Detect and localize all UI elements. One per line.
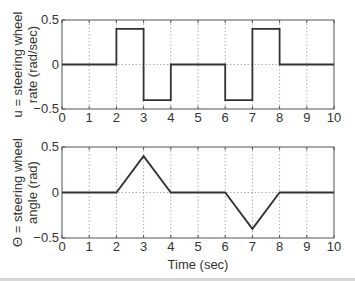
- x-tick-label: 8: [276, 239, 283, 254]
- x-tick-label: 0: [58, 239, 65, 254]
- x-tick-label: 0: [58, 110, 65, 125]
- x-tick-label: 10: [327, 239, 341, 254]
- x-tick-label: 9: [303, 239, 310, 254]
- x-tick-label: 4: [167, 110, 174, 125]
- y-tick-label: 0: [52, 57, 59, 72]
- svg-text:angle (rad): angle (rad): [25, 161, 40, 224]
- y-tick-label: 0.5: [41, 139, 59, 154]
- svg-text:rate (rad/sec): rate (rad/sec): [25, 26, 40, 103]
- x-tick-label: 1: [86, 239, 93, 254]
- x-tick-label: 7: [249, 239, 256, 254]
- y-tick-label: 0.5: [41, 12, 59, 27]
- svg-text:Θ = steering wheel: Θ = steering wheel: [10, 138, 25, 247]
- x-tick-label: 10: [327, 110, 341, 125]
- x-tick-label: 6: [222, 110, 229, 125]
- x-tick-label: 3: [140, 239, 147, 254]
- x-axis-label: Time (sec): [168, 257, 229, 272]
- x-tick-label: 2: [113, 110, 120, 125]
- top-y-axis-label: u = steering wheelrate (rad/sec): [10, 11, 40, 117]
- x-tick-label: 6: [222, 239, 229, 254]
- x-tick-label: 5: [194, 110, 201, 125]
- top-series-line: [62, 29, 334, 100]
- x-tick-label: 3: [140, 110, 147, 125]
- y-tick-label: −0.5: [33, 230, 59, 245]
- y-tick-label: 0: [52, 185, 59, 200]
- x-tick-label: 7: [249, 110, 256, 125]
- x-tick-label: 8: [276, 110, 283, 125]
- svg-text:u = steering wheel: u = steering wheel: [10, 11, 25, 117]
- x-tick-label: 4: [167, 239, 174, 254]
- x-tick-label: 2: [113, 239, 120, 254]
- x-tick-label: 5: [194, 239, 201, 254]
- x-tick-label: 1: [86, 110, 93, 125]
- x-tick-label: 9: [303, 110, 310, 125]
- chart-figure: 0123456789100.50−0.5u = steering wheelra…: [0, 0, 355, 281]
